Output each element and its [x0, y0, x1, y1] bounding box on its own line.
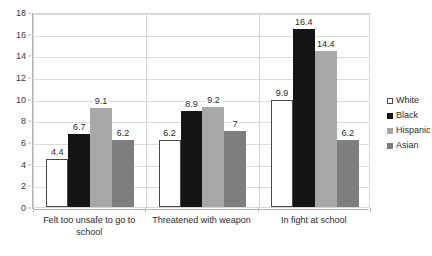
bar-white[interactable] [159, 140, 181, 207]
y-axis-tick-mark [28, 143, 31, 144]
y-axis-tick-label: 16 [16, 30, 26, 39]
bar-black[interactable] [68, 134, 90, 207]
bar-value-label: 8.9 [184, 100, 199, 109]
bar-group: 9.916.414.46.2 [259, 14, 371, 207]
bar-value-label: 6.2 [116, 129, 131, 138]
bar-black[interactable] [181, 111, 203, 207]
y-axis-tick-label: 10 [16, 95, 26, 104]
y-axis-tick-mark [28, 208, 31, 209]
bar-value-label: 9.9 [275, 89, 290, 98]
x-axis-tick-mark [370, 208, 371, 212]
y-axis-tick-mark [28, 13, 31, 14]
bar-value-label: 16.4 [294, 18, 314, 27]
bar-white[interactable] [46, 159, 68, 207]
y-axis-tick-label: 14 [16, 52, 26, 61]
legend-label: White [396, 96, 419, 105]
bar-white[interactable] [271, 100, 293, 207]
bar-asian[interactable] [224, 131, 246, 207]
x-axis-tick-mark [33, 208, 34, 212]
y-axis-tick-label: 4 [21, 160, 26, 169]
bar-chart: 024681012141618 4.46.79.16.26.28.99.279.… [0, 0, 432, 256]
x-axis-tick-mark [145, 208, 146, 212]
bar-group: 6.28.99.27 [146, 14, 258, 207]
legend-item-black[interactable]: Black [387, 108, 431, 123]
legend-label: Asian [396, 141, 419, 150]
y-axis-tick-mark [28, 186, 31, 187]
legend-item-asian[interactable]: Asian [387, 138, 431, 153]
gridline-0 [34, 209, 369, 210]
legend: WhiteBlackHispanicAsian [387, 93, 431, 153]
x-axis-category-label: Felt too unsafe to go to school [33, 214, 145, 238]
group-separator [146, 14, 147, 207]
y-axis-tick-label: 6 [21, 139, 26, 148]
plot-area: 4.46.79.16.26.28.99.279.916.414.46.2 [33, 13, 370, 208]
y-axis-tick-label: 2 [21, 182, 26, 191]
bar-value-label: 6.7 [72, 123, 87, 132]
bar-group: 4.46.79.16.2 [34, 14, 146, 207]
y-axis-tick-mark [28, 121, 31, 122]
bar-value-label: 4.4 [50, 148, 65, 157]
bar-asian[interactable] [112, 140, 134, 207]
y-axis: 024681012141618 [0, 13, 31, 208]
bar-hispanic[interactable] [90, 108, 112, 207]
legend-swatch-icon [387, 98, 393, 104]
bar-hispanic[interactable] [315, 51, 337, 207]
y-axis-tick-mark [28, 34, 31, 35]
bar-value-label: 9.1 [94, 97, 109, 106]
bar-value-label: 14.4 [316, 40, 336, 49]
bar-value-label: 6.2 [162, 129, 177, 138]
legend-label: Black [396, 111, 418, 120]
y-axis-tick-label: 0 [21, 204, 26, 213]
group-separator [259, 14, 260, 207]
x-axis-tick-mark [258, 208, 259, 212]
bar-black[interactable] [293, 29, 315, 207]
legend-swatch-icon [387, 128, 393, 134]
bar-hispanic[interactable] [202, 107, 224, 207]
x-axis-category-label: In fight at school [258, 214, 370, 226]
legend-swatch-icon [387, 113, 393, 119]
bar-value-label: 7 [232, 120, 239, 129]
legend-label: Hispanic [396, 126, 431, 135]
y-axis-tick-label: 12 [16, 74, 26, 83]
y-axis-tick-label: 8 [21, 117, 26, 126]
bar-value-label: 6.2 [340, 129, 355, 138]
y-axis-tick-mark [28, 164, 31, 165]
legend-swatch-icon [387, 143, 393, 149]
bar-value-label: 9.2 [206, 96, 221, 105]
y-axis-tick-label: 18 [16, 9, 26, 18]
y-axis-tick-mark [28, 78, 31, 79]
y-axis-tick-mark [28, 56, 31, 57]
legend-item-hispanic[interactable]: Hispanic [387, 123, 431, 138]
bar-asian[interactable] [337, 140, 359, 207]
x-axis-category-label: Threatened with weapon [145, 214, 257, 226]
y-axis-tick-mark [28, 99, 31, 100]
legend-item-white[interactable]: White [387, 93, 431, 108]
